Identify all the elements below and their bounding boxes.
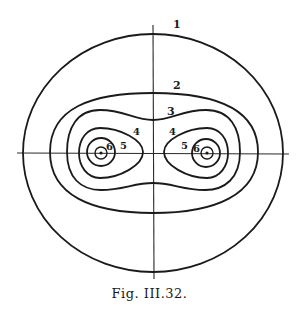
- label-contour-6-right: 6: [193, 143, 200, 154]
- contour-diagram: 1 2 3 4 4 5 5 6 6: [0, 0, 299, 311]
- label-contour-5-right: 5: [181, 140, 188, 151]
- focus-point-right: [205, 151, 208, 154]
- label-contour-4-right: 4: [169, 126, 176, 137]
- label-contour-5-left: 5: [120, 140, 127, 151]
- vertical-axis: [153, 25, 154, 279]
- label-contour-6-left: 6: [106, 141, 113, 152]
- label-contour-3: 3: [167, 105, 175, 118]
- label-contour-4-left: 4: [133, 126, 140, 137]
- label-contour-2: 2: [173, 79, 181, 92]
- figure-caption: Fig. III.32.: [0, 286, 299, 301]
- focus-point-left: [99, 151, 102, 154]
- horizontal-axis: [17, 153, 289, 154]
- label-contour-1: 1: [173, 18, 181, 31]
